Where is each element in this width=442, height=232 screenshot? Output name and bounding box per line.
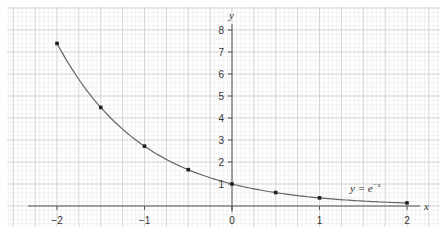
curve-label-base: y = e (349, 182, 373, 194)
y-axis-label: y (228, 9, 234, 21)
y-tick-label: 7 (218, 47, 224, 58)
y-tick-label: 3 (218, 135, 224, 146)
data-point (99, 106, 103, 110)
data-point (274, 191, 278, 195)
x-tick-label: 0 (229, 215, 235, 226)
chart: −2−101212345678 x y y = e−x (0, 0, 442, 232)
y-tick-label: 8 (218, 25, 224, 36)
data-point (405, 201, 409, 205)
y-tick-label: 2 (218, 157, 224, 168)
x-axis-label: x (423, 200, 429, 212)
x-tick-label: 1 (317, 215, 323, 226)
data-point (186, 168, 190, 172)
x-tick-label: 2 (404, 215, 410, 226)
data-point (230, 182, 234, 186)
y-tick-label: 6 (218, 69, 224, 80)
data-point (318, 196, 322, 200)
data-point (55, 42, 59, 46)
y-tick-label: 4 (218, 113, 224, 124)
data-point (143, 144, 147, 148)
x-tick-label: −2 (51, 215, 63, 226)
y-tick-label: 5 (218, 91, 224, 102)
x-tick-label: −1 (139, 215, 151, 226)
curve-label-exponent: −x (373, 181, 382, 189)
